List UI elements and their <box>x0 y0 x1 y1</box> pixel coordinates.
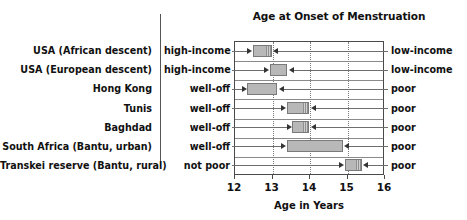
gridline-13 <box>273 42 274 174</box>
label-column-divider <box>160 14 161 166</box>
right-group-label: low-income <box>389 41 467 60</box>
plot-inner <box>235 42 383 174</box>
x-tick-label: 14 <box>302 181 317 193</box>
category-label: USA (European descent) <box>0 60 156 79</box>
category-label: USA (African descent) <box>0 41 156 60</box>
row-separator <box>235 138 383 139</box>
category-label: South Africa (Bantu, urban) <box>0 137 156 156</box>
x-tick <box>234 175 235 179</box>
right-group-label: poor <box>389 118 467 137</box>
chart-figure: Age at Onset of Menstruation USA (Africa… <box>0 0 467 220</box>
row-separator <box>235 61 383 62</box>
x-tick-label: 15 <box>339 181 354 193</box>
right-group-label: poor <box>389 156 467 175</box>
x-tick-label: 16 <box>377 181 392 193</box>
x-tick-label: 13 <box>264 181 279 193</box>
left-group-label: well-off <box>164 137 232 156</box>
row-separator <box>235 80 383 81</box>
row-separator <box>235 119 383 120</box>
x-tick <box>347 175 348 179</box>
row-separator <box>235 157 383 158</box>
left-group-label: not poor <box>164 156 232 175</box>
category-label: Baghdad <box>0 118 156 137</box>
gridline-15 <box>348 42 349 174</box>
left-group-label: high-income <box>164 60 232 79</box>
category-label-column: USA (African descent) USA (European desc… <box>0 41 156 175</box>
right-group-label: poor <box>389 99 467 118</box>
x-tick <box>384 175 385 179</box>
left-group-label-column: high-income high-income well-off well-of… <box>164 41 232 175</box>
right-group-label: poor <box>389 79 467 98</box>
left-group-label: high-income <box>164 41 232 60</box>
left-group-label: well-off <box>164 99 232 118</box>
category-label: Hong Kong <box>0 79 156 98</box>
plot-area <box>234 41 384 175</box>
x-tick <box>272 175 273 179</box>
category-label: Tunis <box>0 99 156 118</box>
x-axis-title: Age in Years <box>234 200 384 211</box>
left-group-label: well-off <box>164 118 232 137</box>
left-group-label: well-off <box>164 79 232 98</box>
right-group-label-column: low-income low-income poor poor poor poo… <box>389 41 467 175</box>
chart-title: Age at Onset of Menstruation <box>234 10 444 22</box>
right-group-label: low-income <box>389 60 467 79</box>
category-label: Transkei reserve (Bantu, rural) <box>0 156 156 175</box>
x-tick-label: 12 <box>227 181 242 193</box>
row-separator <box>235 99 383 100</box>
right-group-label: poor <box>389 137 467 156</box>
x-tick <box>309 175 310 179</box>
gridline-14 <box>310 42 311 174</box>
